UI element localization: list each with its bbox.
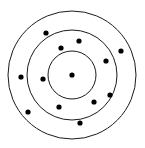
scatter-dot	[118, 48, 123, 53]
scatter-dot	[40, 76, 45, 81]
scatter-dot	[103, 58, 108, 63]
center-dot	[69, 72, 74, 77]
scatter-dot	[107, 92, 112, 97]
scatter-dot	[91, 99, 96, 104]
scatter-dot	[76, 38, 81, 43]
scatter-dot	[56, 104, 61, 109]
scatter-dot	[18, 74, 23, 79]
scatter-dot	[58, 45, 63, 50]
scatter-dot	[43, 30, 48, 35]
scatter-dot	[77, 120, 82, 125]
figure-container	[0, 0, 145, 148]
concentric-circles-scatter-plot	[0, 0, 145, 148]
scatter-dot	[25, 109, 30, 114]
